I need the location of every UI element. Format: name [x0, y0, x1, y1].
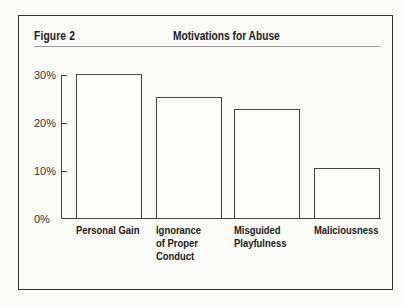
y-tick-30 [61, 75, 67, 76]
y-tick-label-0: 0% [34, 213, 58, 225]
y-tick-20 [61, 123, 67, 124]
bar-personal-gain [76, 74, 142, 218]
y-axis [61, 75, 62, 219]
x-axis [61, 218, 381, 219]
x-label-misguided-playfulness: Misguided Playfulness [234, 224, 286, 250]
chart-title: Motivations for Abuse [173, 29, 280, 43]
y-tick-label-20: 20% [34, 117, 58, 129]
y-tick-label-30: 30% [34, 69, 58, 81]
figure-label: Figure 2 [34, 29, 75, 43]
title-rule [34, 46, 380, 47]
x-label-personal-gain: Personal Gain [76, 224, 139, 237]
x-label-maliciousness: Maliciousness [314, 224, 378, 237]
y-tick-10 [61, 171, 67, 172]
x-label-ignorance: Ignorance of Proper Conduct [156, 224, 201, 263]
y-tick-label-10: 10% [34, 165, 58, 177]
bar-misguided-playfulness [234, 109, 300, 218]
bar-maliciousness [314, 168, 380, 218]
bar-ignorance [156, 97, 222, 218]
